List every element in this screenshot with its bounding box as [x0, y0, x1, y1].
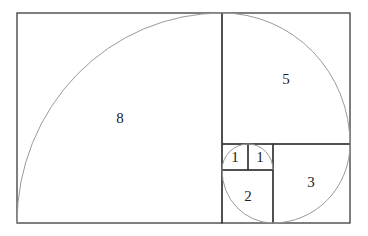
label-3: 3 — [307, 174, 315, 190]
label-1-left: 1 — [231, 149, 239, 165]
fibonacci-spiral-diagram: 8 5 3 2 1 1 — [0, 0, 368, 236]
label-5: 5 — [282, 71, 290, 87]
label-8: 8 — [116, 110, 124, 126]
label-1-right: 1 — [256, 149, 264, 165]
label-2: 2 — [244, 188, 252, 204]
spiral-arc — [17, 13, 350, 223]
